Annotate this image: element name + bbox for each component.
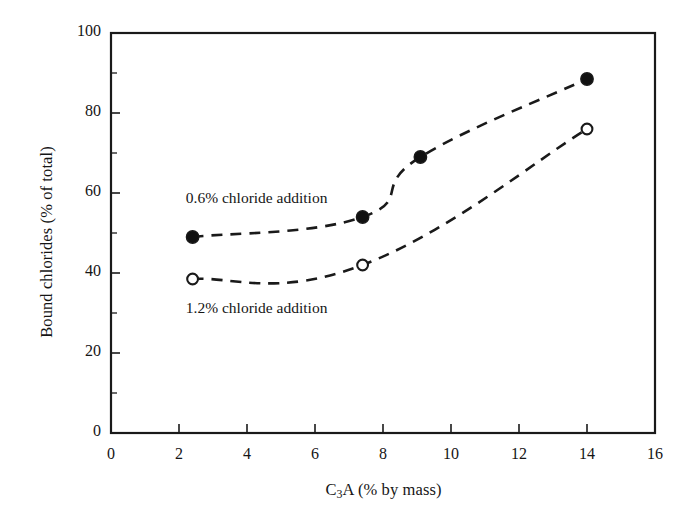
y-tick-label-4: 80 — [55, 102, 101, 120]
data-point-s1-p0 — [187, 274, 198, 285]
x-tick-label-8: 16 — [635, 445, 675, 463]
x-tick-label-7: 14 — [567, 445, 607, 463]
y-tick-label-5: 100 — [55, 22, 101, 40]
plot-area — [0, 0, 697, 522]
x-tick-label-2: 4 — [227, 445, 267, 463]
y-tick-label-1: 20 — [55, 342, 101, 360]
x-axis-title-post: A (% by mass) — [343, 480, 442, 499]
x-axis-title-pre: C — [325, 480, 336, 499]
x-tick-label-0: 0 — [91, 445, 131, 463]
series-markers — [186, 73, 593, 285]
series-annotation-0: 0.6% chloride addition — [186, 189, 328, 207]
data-point-s0-p2 — [414, 151, 426, 163]
x-axis-ticks — [111, 424, 655, 433]
y-tick-label-2: 40 — [55, 262, 101, 280]
series-annotation-1: 1.2% chloride addition — [186, 299, 328, 317]
y-axis-title: Bound chlorides (% of total) — [37, 77, 57, 407]
series-line-0 — [193, 79, 587, 237]
x-tick-label-3: 6 — [295, 445, 335, 463]
x-tick-label-1: 2 — [159, 445, 199, 463]
y-axis-ticks — [111, 33, 120, 433]
x-axis-title-subscript: 3 — [337, 487, 343, 501]
data-point-s0-p1 — [356, 211, 368, 223]
chart-figure: Bound chlorides (% of total) C3A (% by m… — [0, 0, 697, 522]
x-axis-title: C3A (% by mass) — [111, 480, 656, 500]
series-lines — [193, 79, 587, 283]
x-tick-label-5: 10 — [431, 445, 471, 463]
y-tick-label-3: 60 — [55, 182, 101, 200]
data-point-s1-p2 — [582, 124, 593, 135]
data-point-s0-p3 — [581, 73, 593, 85]
data-point-s1-p1 — [357, 260, 368, 271]
x-tick-label-6: 12 — [499, 445, 539, 463]
data-point-s0-p0 — [186, 231, 198, 243]
x-tick-label-4: 8 — [363, 445, 403, 463]
y-tick-label-0: 0 — [55, 422, 101, 440]
